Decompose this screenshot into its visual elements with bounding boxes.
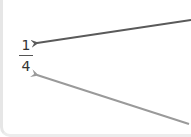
arrows-layer: [0, 0, 191, 137]
bottom-arrow-icon: [37, 75, 189, 124]
top-arrow-icon: [37, 20, 191, 43]
